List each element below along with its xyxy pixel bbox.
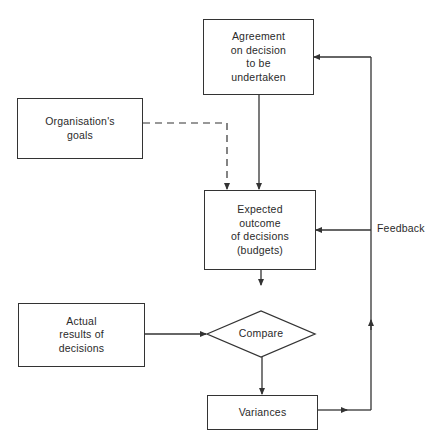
expected-outcome-label: Expected outcome of decisions (budgets) (231, 203, 289, 257)
actual-results-label: Actual results of decisions (59, 315, 105, 356)
goals-label: Organisation's goals (45, 115, 115, 142)
compare-label: Compare (221, 327, 301, 339)
actual-results-box: Actual results of decisions (18, 303, 145, 367)
variances-box: Variances (207, 395, 318, 430)
agreement-label: Agreement on decision to be undertaken (231, 30, 286, 84)
feedback-label: Feedback (377, 222, 425, 234)
variances-label: Variances (239, 406, 287, 420)
dashed-arrow-goals-to-expected (143, 123, 227, 189)
expected-outcome-box: Expected outcome of decisions (budgets) (204, 190, 316, 270)
agreement-box: Agreement on decision to be undertaken (203, 19, 314, 95)
goals-box: Organisation's goals (17, 98, 143, 159)
